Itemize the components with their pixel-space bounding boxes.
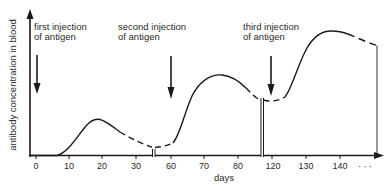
tick-80: 80 <box>233 161 243 171</box>
annotation-line-2: of antigen <box>34 31 76 42</box>
annotation-first-injection: first injection of antigen <box>34 21 87 42</box>
axis-break-1 <box>153 149 156 157</box>
arrow-down-icon <box>268 84 275 96</box>
tick-0: 0 <box>33 161 38 171</box>
arrow-down-icon <box>168 87 175 99</box>
annotation-second-injection: second injection of antigen <box>118 21 186 42</box>
axis-break-2 <box>261 98 264 157</box>
y-axis-arrowhead <box>27 9 34 19</box>
tick-ellipsis: · · · <box>358 161 372 171</box>
injection-arrow-first <box>34 55 41 94</box>
tick-120: 120 <box>265 161 280 171</box>
tick-30: 30 <box>131 161 141 171</box>
tick-20: 20 <box>97 161 107 171</box>
injection-arrow-second <box>168 56 175 99</box>
y-axis-label: antibody concentration in blood <box>7 19 18 151</box>
tick-130: 130 <box>298 161 313 171</box>
curve-primary-response <box>30 119 152 155</box>
injection-arrow-third <box>268 56 275 96</box>
x-axis-label: days <box>214 172 234 183</box>
arrow-down-icon <box>34 83 41 94</box>
tick-70: 70 <box>199 161 209 171</box>
antibody-response-chart: antibody concentration in blood 0 10 20 … <box>0 0 387 191</box>
tick-140: 140 <box>332 161 347 171</box>
curve-tertiary-response <box>264 31 378 156</box>
tick-10: 10 <box>64 161 74 171</box>
y-axis: antibody concentration in blood <box>7 9 34 157</box>
x-tick-labels: 0 10 20 30 60 70 80 120 130 140 · · · <box>33 161 372 171</box>
annotation-line-2: of antigen <box>118 31 160 42</box>
annotation-third-injection: third injection of antigen <box>243 21 299 42</box>
annotation-line-2: of antigen <box>243 31 285 42</box>
tick-60: 60 <box>166 161 176 171</box>
x-axis-arrowhead <box>374 152 384 159</box>
